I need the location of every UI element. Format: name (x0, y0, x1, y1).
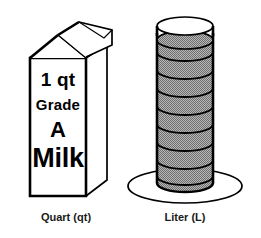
carton-grade-word-text: Grade (36, 96, 80, 113)
carton-quantity-text: 1 qt (41, 69, 76, 90)
milk-carton: 1 qt Grade A Milk Quart (qt) (30, 22, 112, 223)
unit-comparison-figure: 1 qt Grade A Milk Quart (qt) (0, 0, 261, 238)
carton-product-text: Milk (32, 143, 85, 173)
carton-grade-letter-text: A (50, 117, 66, 142)
carton-side-panel (86, 44, 107, 196)
figure-canvas: 1 qt Grade A Milk Quart (qt) (0, 0, 261, 238)
graduated-cylinder: Liter (L) (128, 17, 242, 223)
quart-caption: Quart (qt) (41, 211, 91, 223)
liter-caption: Liter (L) (165, 211, 206, 223)
